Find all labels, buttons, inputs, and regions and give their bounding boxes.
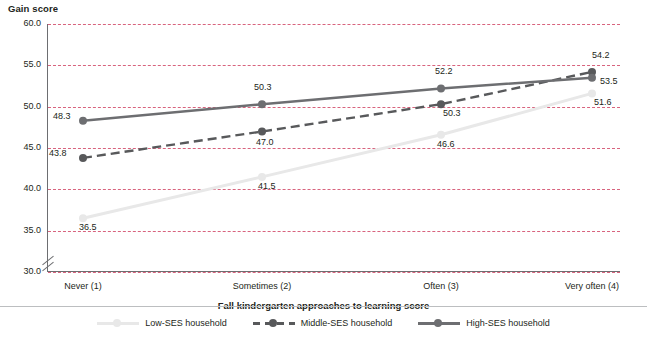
legend-swatch [97,318,139,328]
legend: Low-SES householdMiddle-SES householdHig… [0,318,647,328]
legend-item: Middle-SES household [253,318,393,328]
data-point-marker [437,84,445,92]
data-point-label: 36.5 [79,222,97,232]
legend-item: Low-SES household [97,318,227,328]
x-tick-label: Never (1) [23,281,143,291]
data-point-marker [437,131,445,139]
data-point-label: 50.3 [254,82,272,92]
legend-swatch [253,318,295,328]
legend-label: Middle-SES household [301,318,393,328]
data-point-marker [79,154,87,162]
data-point-marker [79,214,87,222]
data-point-marker [258,127,266,135]
gridline [48,272,620,273]
data-point-label: 53.5 [600,76,618,86]
data-point-label: 41.5 [258,181,276,191]
y-tick-label: 30.0 [7,266,41,276]
legend-label: Low-SES household [145,318,227,328]
data-point-label: 54.2 [592,50,610,60]
x-tick-label: Often (3) [381,281,501,291]
y-tick-label: 45.0 [7,142,41,152]
y-axis-title: Gain score [8,3,58,14]
legend-item: High-SES household [418,318,550,328]
data-point-label: 47.0 [256,137,274,147]
series-line [83,93,592,218]
data-point-label: 51.6 [594,97,612,107]
data-point-label: 50.3 [443,108,461,118]
data-point-label: 52.2 [435,66,453,76]
y-tick-label: 40.0 [7,183,41,193]
data-point-label: 43.8 [49,148,67,158]
chart-container: Gain score 30.035.040.045.050.055.060.0 … [0,0,647,343]
x-tick-label: Sometimes (2) [202,281,322,291]
legend-divider [0,306,647,307]
legend-label: High-SES household [466,318,550,328]
data-point-marker [588,74,596,82]
x-tick-label: Very often (4) [532,281,647,291]
data-point-label: 48.3 [53,111,71,121]
y-tick-label: 55.0 [7,59,41,69]
data-point-marker [437,100,445,108]
data-point-label: 46.6 [437,139,455,149]
legend-swatch [418,318,460,328]
data-point-marker [79,117,87,125]
y-tick-label: 50.0 [7,101,41,111]
data-point-marker [258,173,266,181]
data-point-marker [588,89,596,97]
axis-break-icon [40,255,56,273]
data-point-marker [258,100,266,108]
y-tick-label: 60.0 [7,18,41,28]
series-lines [47,24,620,272]
plot-area [47,24,620,272]
y-tick-label: 35.0 [7,225,41,235]
